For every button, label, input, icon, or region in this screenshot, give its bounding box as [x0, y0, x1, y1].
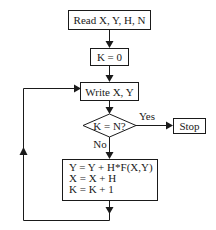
update-process-box: Y = Y + H*F(X,Y) X = X + H K = K + 1	[63, 160, 158, 201]
write-output-label: Write X, Y	[85, 86, 133, 98]
read-input-label: Read X, Y, H, N	[74, 14, 146, 26]
decision-diamond: K = N?	[83, 114, 136, 137]
write-output-box: Write X, Y	[81, 83, 139, 101]
init-counter-box: K = 0	[91, 49, 129, 66]
arrowhead-up-icon	[20, 147, 28, 155]
arrowhead-down-icon	[106, 107, 114, 114]
init-counter-label: K = 0	[97, 51, 123, 63]
stop-label: Stop	[179, 120, 200, 132]
stop-box: Stop	[174, 119, 206, 134]
arrowhead-down-icon	[106, 41, 114, 48]
arrowhead-down-icon	[106, 207, 114, 214]
arrowhead-right-icon	[74, 85, 81, 93]
arrowhead-right-icon	[166, 122, 173, 130]
flowchart: Read X, Y, H, N K = 0 Write X, Y K = N? …	[0, 0, 216, 230]
update-line-3: K = K + 1	[69, 183, 114, 195]
yes-branch-label: Yes	[139, 110, 155, 122]
arrowhead-down-icon	[106, 152, 114, 159]
read-input-box: Read X, Y, H, N	[69, 11, 151, 30]
decision-label: K = N?	[93, 120, 126, 132]
no-branch-label: No	[93, 138, 107, 150]
arrowhead-down-icon	[106, 75, 114, 82]
